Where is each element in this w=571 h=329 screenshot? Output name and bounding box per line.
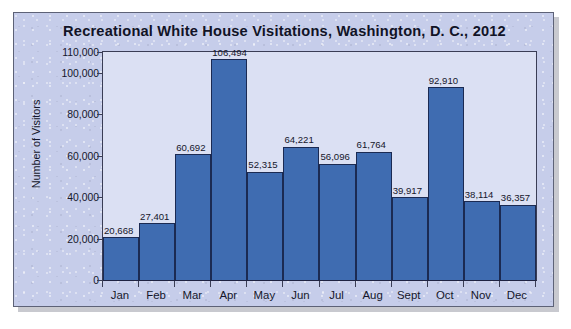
plot-inner: 20,66827,40160,692106,49452,31564,22156,… — [103, 52, 536, 280]
bar[interactable] — [175, 154, 211, 280]
x-tick-mark — [282, 281, 283, 287]
bar-value-label: 64,221 — [284, 134, 313, 145]
bar-cell: 60,692 — [175, 52, 211, 280]
y-tick-label: 60,000 — [57, 150, 99, 161]
bar-cell: 39,917 — [392, 52, 428, 280]
chart-screenshot: Recreational White House Visitations, Wa… — [0, 0, 571, 329]
x-tick-mark — [246, 281, 247, 287]
x-axis: JanFebMarAprMayJunJulAugSeptOctNovDec — [102, 281, 535, 313]
chart-title: Recreational White House Visitations, Wa… — [14, 23, 555, 39]
bar-value-label: 106,494 — [212, 47, 247, 58]
y-tick-mark — [97, 197, 103, 198]
plot-area: 20,66827,40160,692106,49452,31564,22156,… — [102, 51, 537, 281]
bar-cell: 27,401 — [139, 52, 175, 280]
y-tick-mark — [97, 73, 103, 74]
bar-value-label: 61,764 — [357, 139, 386, 150]
x-tick-mark — [138, 281, 139, 287]
x-tick-mark — [102, 281, 103, 287]
bar-cell: 92,910 — [428, 52, 464, 280]
x-tick-mark — [391, 281, 392, 287]
bar-cell: 64,221 — [283, 52, 319, 280]
bar[interactable] — [139, 223, 175, 280]
x-tick-mark — [499, 281, 500, 287]
bar[interactable] — [319, 164, 355, 280]
bar[interactable] — [392, 197, 428, 280]
bar-value-label: 27,401 — [140, 211, 169, 222]
bar-cell: 20,668 — [103, 52, 139, 280]
chart-panel: Recreational White House Visitations, Wa… — [13, 12, 554, 307]
y-tick-label: 20,000 — [57, 233, 99, 244]
bar-value-label: 38,114 — [465, 189, 494, 200]
x-tick-mark — [355, 281, 356, 287]
bar-cell: 61,764 — [356, 52, 392, 280]
bar-cell: 52,315 — [247, 52, 283, 280]
y-tick-label: 100,000 — [57, 67, 99, 78]
x-tick-label: Dec — [494, 289, 540, 301]
bar[interactable] — [211, 59, 247, 280]
bar[interactable] — [356, 152, 392, 280]
y-tick-mark — [97, 156, 103, 157]
y-tick-mark — [97, 239, 103, 240]
y-tick-mark — [97, 114, 103, 115]
bar-value-label: 60,692 — [176, 142, 205, 153]
bar-value-label: 36,357 — [501, 192, 530, 203]
bar-value-label: 52,315 — [248, 159, 277, 170]
bar-value-label: 56,096 — [320, 151, 349, 162]
bar-value-label: 20,668 — [104, 225, 133, 236]
y-tick-label: 110,000 — [57, 47, 99, 58]
bar[interactable] — [500, 205, 536, 280]
bar-cell: 36,357 — [500, 52, 536, 280]
y-tick-label: 0 — [57, 275, 99, 286]
x-tick-mark — [535, 281, 536, 287]
bar[interactable] — [464, 201, 500, 280]
bar-series: 20,66827,40160,692106,49452,31564,22156,… — [103, 52, 536, 280]
y-tick-label: 80,000 — [57, 109, 99, 120]
y-tick-mark — [97, 52, 103, 53]
bar[interactable] — [247, 172, 283, 280]
y-axis-label: Number of Visitors — [30, 79, 42, 209]
x-tick-mark — [427, 281, 428, 287]
bar-cell: 106,494 — [211, 52, 247, 280]
bar[interactable] — [283, 147, 319, 280]
bar-value-label: 92,910 — [429, 75, 458, 86]
x-tick-mark — [210, 281, 211, 287]
x-tick-mark — [174, 281, 175, 287]
x-tick-mark — [463, 281, 464, 287]
x-tick-mark — [319, 281, 320, 287]
bar-cell: 56,096 — [319, 52, 355, 280]
bar[interactable] — [103, 237, 139, 280]
bar[interactable] — [428, 87, 464, 280]
y-tick-label: 40,000 — [57, 192, 99, 203]
bar-value-label: 39,917 — [393, 185, 422, 196]
bar-cell: 38,114 — [464, 52, 500, 280]
